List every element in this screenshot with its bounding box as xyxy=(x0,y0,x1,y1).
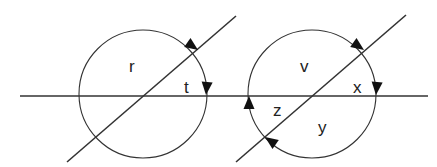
arrow-at-horizontal-intersection-icon xyxy=(201,82,213,96)
angle-label-t: t xyxy=(184,78,189,97)
angle-diagram: r t v x z y xyxy=(0,0,437,167)
right-figure: v x z y xyxy=(236,15,406,162)
left-diagonal-line xyxy=(67,16,236,162)
angle-label-y: y xyxy=(318,118,327,137)
angle-label-x: x xyxy=(353,78,362,97)
arrow-at-upper-diagonal-intersection-icon xyxy=(350,38,367,54)
arrow-at-diagonal-intersection-icon xyxy=(184,38,201,54)
angle-label-z: z xyxy=(273,101,282,120)
left-figure: r t xyxy=(67,16,236,162)
angle-label-r: r xyxy=(129,57,135,76)
arrow-at-right-horizontal-intersection-icon xyxy=(371,82,383,96)
right-arrows xyxy=(244,38,383,149)
right-diagonal-line xyxy=(236,15,406,162)
arrow-at-left-horizontal-intersection-icon xyxy=(244,96,255,109)
angle-label-v: v xyxy=(300,57,309,76)
